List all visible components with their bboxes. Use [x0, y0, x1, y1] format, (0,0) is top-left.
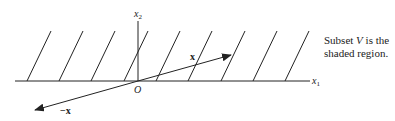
caption-line-2: shaded region. [324, 47, 389, 60]
vector-neg-x-arrow [35, 81, 138, 110]
vector-x-arrow [138, 55, 231, 81]
vector-neg-x-label: −x [60, 105, 71, 116]
subset-variable: V [356, 34, 363, 46]
vector-x-label: x [190, 51, 195, 62]
x1-axis-label: x1 [311, 75, 320, 88]
diagram-canvas: x2 x1 O x −x [0, 0, 395, 121]
origin-label: O [134, 84, 141, 95]
hatch-lines [27, 31, 309, 81]
x2-axis-label: x2 [133, 8, 142, 21]
caption-line-1: Subset V is the [324, 34, 389, 47]
figure-caption: Subset V is the shaded region. [324, 34, 389, 60]
